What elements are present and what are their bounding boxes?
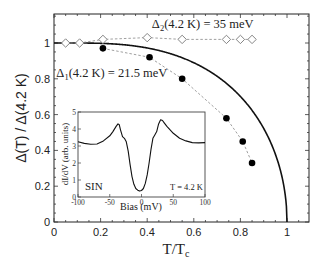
inset-y-tick-label: 3 — [72, 142, 76, 151]
annotation-text: (4.2 K) = 21.5 meV — [69, 66, 168, 80]
inset-y-tick-label: 1 — [72, 176, 76, 185]
gap-vs-temperature-chart: 00.20.40.60.8100.20.40.60.81T/TcΔ(T) / Δ… — [0, 0, 325, 259]
y-tick-label: 0.6 — [35, 109, 50, 121]
y-tick-label: 0.2 — [35, 180, 50, 192]
filled-circle-marker — [100, 45, 107, 52]
y-tick-label: 1 — [44, 37, 50, 49]
open-diamond-marker — [99, 35, 107, 43]
annotation-delta2: Δ2(4.2 K) = 35 meV — [152, 17, 254, 33]
y-tick-label: 0.4 — [35, 144, 50, 156]
x-axis-label: T/Tc — [163, 241, 191, 259]
y-tick-label: 0.8 — [35, 73, 50, 85]
inset-x-tick-label: 100 — [199, 198, 211, 207]
filled-circle-marker — [239, 138, 246, 145]
annotation-text: (4.2 K) = 35 meV — [164, 17, 253, 31]
filled-circle-marker — [146, 54, 153, 61]
inset-x-tick-label: -50 — [105, 198, 115, 207]
inset-y-tick-label: 0 — [72, 193, 76, 202]
open-diamond-marker — [75, 39, 83, 47]
open-diamond-marker — [178, 35, 186, 43]
annotation-delta1: Δ1(4.2 K) = 21.5 meV — [56, 66, 167, 82]
x-tick-label: 0.6 — [186, 226, 201, 238]
inset-y-tick-label: 2 — [72, 159, 76, 168]
inset-y-tick-label: 4 — [72, 125, 76, 134]
y-tick-label: 0 — [44, 216, 50, 228]
open-diamond-marker — [236, 35, 244, 43]
inset-x-axis-label: Bias (mV) — [120, 201, 162, 213]
inset-x-tick-label: 50 — [170, 198, 178, 207]
inset-plot: -100-50050100012345Bias (mV)dI/dV (arb. … — [60, 108, 211, 213]
open-diamond-marker — [143, 33, 151, 41]
x-tick-label: 0.4 — [140, 226, 155, 238]
inset-label-sin: SIN — [85, 180, 103, 192]
x-tick-label: 1 — [284, 226, 290, 238]
y-axis-label: Δ(T) / Δ(4.2 K) — [13, 73, 29, 163]
filled-circle-marker — [179, 76, 186, 83]
inset-label-temperature: T = 4.2 K — [170, 182, 204, 192]
x-axis-label-subscript: c — [185, 248, 190, 259]
filled-circle-marker — [223, 115, 230, 122]
open-diamond-marker — [222, 35, 230, 43]
filled-circle-marker — [249, 160, 256, 167]
inset-y-axis-label: dI/dV (arb. units) — [60, 123, 70, 186]
x-tick-label: 0.8 — [233, 226, 248, 238]
open-diamond-marker — [61, 39, 69, 47]
open-diamond-marker — [248, 35, 256, 43]
x-tick-label: 0.2 — [93, 226, 108, 238]
x-tick-label: 0 — [51, 226, 57, 238]
inset-y-tick-label: 5 — [72, 108, 76, 117]
